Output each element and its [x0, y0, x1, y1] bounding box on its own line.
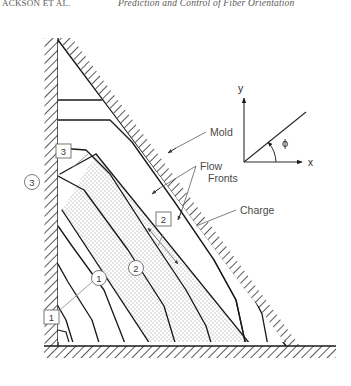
circle-label-2: 2	[129, 261, 144, 276]
callout-mold-label: Mold	[210, 126, 233, 138]
circle-label-3: 3	[25, 175, 40, 190]
axis-label-x: x	[308, 157, 313, 168]
mold-wall-bottom	[44, 346, 336, 358]
angle-arc	[268, 142, 276, 162]
figure-page: ACKSON ET AL. Prediction and Control of …	[0, 0, 351, 386]
circle-label-1: 1	[92, 271, 107, 286]
mold-flow-diagram: Mold Flow Fronts Charge	[0, 14, 351, 370]
running-head-right: Prediction and Control of Fiber Orientat…	[118, 0, 295, 8]
angle-label-phi: ϕ	[282, 137, 288, 149]
callout-charge-label: Charge	[240, 204, 275, 216]
box-label-2-text: 2	[161, 214, 166, 225]
axes-inset: y x ϕ	[238, 82, 313, 168]
callout-flow-label: Flow	[200, 160, 223, 172]
circle-label-2-text: 2	[133, 263, 138, 274]
axis-label-y: y	[238, 82, 244, 94]
callout-mold: Mold	[168, 126, 233, 153]
box-label-3-text: 3	[61, 146, 66, 157]
figure-caption	[0, 374, 351, 386]
callout-fronts-label: Fronts	[208, 172, 238, 184]
box-label-1-text: 1	[49, 312, 54, 323]
circle-label-3-text: 3	[29, 177, 34, 188]
circle-label-1-text: 1	[96, 273, 101, 284]
mold-wall-left	[44, 38, 58, 346]
running-head: ACKSON ET AL. Prediction and Control of …	[0, 0, 351, 14]
running-head-left: ACKSON ET AL.	[2, 0, 71, 8]
